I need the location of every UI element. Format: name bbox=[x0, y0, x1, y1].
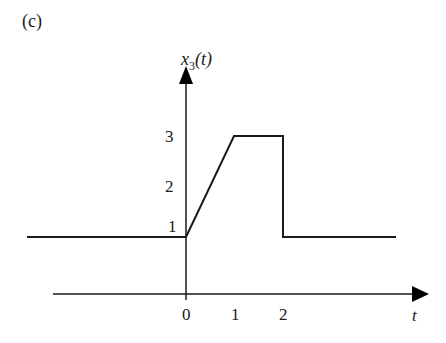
x-axis-label: t bbox=[412, 307, 417, 324]
x-axis-arrow-icon bbox=[412, 286, 429, 302]
y-axis-arrow-icon bbox=[179, 66, 193, 84]
y-tick-3: 3 bbox=[165, 128, 174, 145]
chart-plot bbox=[0, 0, 446, 343]
y-tick-2: 2 bbox=[165, 178, 174, 195]
x-tick-2: 2 bbox=[279, 306, 288, 323]
y-tick-1: 1 bbox=[168, 218, 177, 235]
x-tick-1: 1 bbox=[231, 306, 240, 323]
x-tick-0: 0 bbox=[182, 306, 191, 323]
signal-x3 bbox=[27, 136, 396, 237]
